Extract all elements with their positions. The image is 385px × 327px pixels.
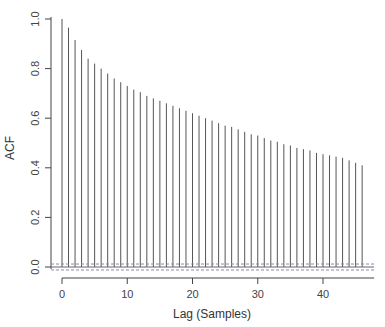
y-tick-label: 1.0 (29, 11, 41, 26)
y-tick-label: 0.6 (29, 111, 41, 126)
y-axis-title: ACF (3, 136, 17, 160)
y-tick-label: 0.0 (29, 259, 41, 274)
y-tick-label: 0.4 (29, 160, 41, 175)
x-axis-title: Lag (Samples) (173, 307, 251, 321)
y-axis: 0.00.20.40.60.81.0 (29, 11, 51, 274)
x-tick-label: 30 (252, 288, 264, 300)
x-tick-label: 20 (186, 288, 198, 300)
x-tick-label: 0 (59, 288, 65, 300)
y-tick-label: 0.8 (29, 61, 41, 76)
x-axis: 010203040 (59, 278, 329, 300)
x-tick-label: 40 (317, 288, 329, 300)
acf-stems (62, 19, 362, 267)
y-tick-label: 0.2 (29, 210, 41, 225)
acf-chart: 010203040 0.00.20.40.60.81.0 Lag (Sample… (0, 0, 385, 327)
x-tick-label: 10 (121, 288, 133, 300)
